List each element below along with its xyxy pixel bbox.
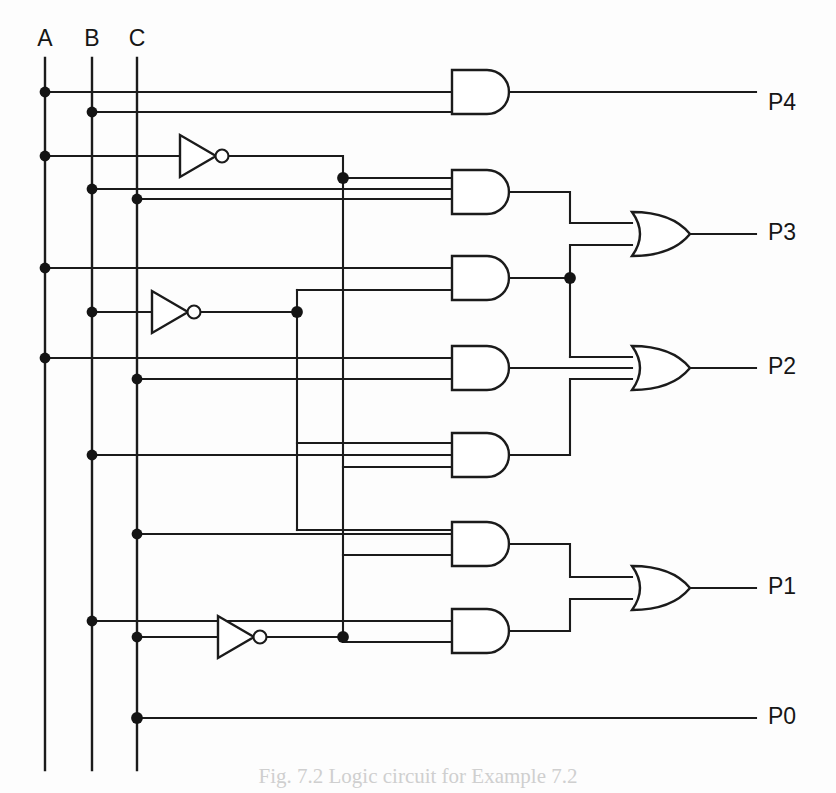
junction-dot [337,631,349,643]
and-gate-7-output [509,599,632,631]
junction-dot [131,712,143,724]
junction-dot [291,306,303,318]
junction-dot [132,632,143,643]
junction-dot [132,374,143,385]
and-gate-2 [452,170,632,223]
figure-caption: Fig. 7.2 Logic circuit for Example 7.2 [0,760,836,793]
input-label-c: C [129,25,146,51]
junction-dot [87,107,98,118]
or-gate-p3 [632,212,756,256]
output-labels: P4 P3 P2 P1 P0 [768,89,796,729]
and-gate-6-output [509,544,632,577]
inverter-b-bubble [188,306,201,319]
circuit-svg: A B C P4 P3 P2 P1 P0 [0,0,836,793]
inverter-b [152,290,452,530]
inverter-c [218,616,452,658]
and-gate-6 [452,522,632,577]
or-gate-p1-body [632,566,690,610]
input-labels: A B C [37,25,145,51]
inverter-c-bubble [254,631,267,644]
and-gate-5-output [509,379,632,455]
junction-dot [132,194,143,205]
and-gate-1 [452,70,756,114]
inverter-a-bubble [216,150,229,163]
wire-not-a-run [229,156,343,178]
or-gate-p2-body [632,346,690,390]
and-gate-6-body [452,522,509,566]
inverter-a [180,135,343,637]
and-gate-4 [452,346,632,390]
bus-tap-wires [45,92,756,718]
and-gate-3 [452,245,632,357]
logic-circuit-figure: A B C P4 P3 P2 P1 P0 Fig. 7.2 Logic circ… [0,0,836,793]
and-gate-4-body [452,346,509,390]
and-gate-5-body [452,433,509,477]
junction-dot [564,272,576,284]
junction-dot [40,151,51,162]
and-gate-2-body [452,170,509,214]
junction-dot [40,263,51,274]
and-gate-2-output [509,192,632,223]
input-label-a: A [37,25,53,51]
junction-dot [87,307,98,318]
inverter-b-triangle [152,291,188,333]
not-a-branches [343,178,452,555]
input-label-b: B [84,25,99,51]
junction-dot [40,353,51,364]
junction-dot [40,87,51,98]
or-gate-p2 [632,346,756,390]
and-gate-3-body [452,256,509,300]
junction-dot [87,616,98,627]
or-gate-p1 [632,566,756,610]
output-label-p0: P0 [768,703,796,729]
junction-dot [132,529,143,540]
output-label-p3: P3 [768,219,796,245]
and-gate-7-body [452,609,509,653]
junction-dot [337,172,349,184]
inverter-c-triangle [218,616,254,658]
and-gate-5 [452,379,632,477]
output-label-p1: P1 [768,573,796,599]
or-gate-p3-body [632,212,690,256]
output-label-p4: P4 [768,89,796,115]
inverter-a-triangle [180,135,216,177]
junction-dot [87,450,98,461]
and-gate-7 [452,599,632,653]
input-bus-group [45,58,137,770]
junction-dot [87,184,98,195]
output-label-p2: P2 [768,353,796,379]
and-gate-1-body [452,70,509,114]
